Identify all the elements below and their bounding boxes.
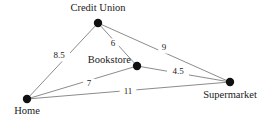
graph-canvas: 8.5694.5711 Credit UnionBookstoreHomeSup… [0,0,274,120]
graph-node-supermarket [226,78,234,86]
edge-weight-labels-group: 8.5694.5711 [48,38,189,97]
edge-weight-home-credit_union: 8.5 [53,50,65,60]
edge-weight-credit_union-bookstore: 6 [111,38,116,48]
edge-weight-credit_union-supermarket: 9 [162,42,167,52]
edge-weight-home-supermarket: 11 [124,86,133,96]
graph-node-bookstore [133,62,141,70]
node-label-bookstore: Bookstore [88,54,132,65]
edge-weight-home-bookstore: 7 [87,78,92,88]
weighted-graph-diagram: 8.5694.5711 Credit UnionBookstoreHomeSup… [0,0,274,120]
graph-node-credit_union [94,19,102,27]
node-label-home: Home [14,105,40,116]
graph-node-home [23,95,31,103]
node-label-supermarket: Supermarket [203,89,257,100]
node-label-credit_union: Credit Union [70,2,126,13]
edge-weight-bookstore-supermarket: 4.5 [172,66,184,76]
